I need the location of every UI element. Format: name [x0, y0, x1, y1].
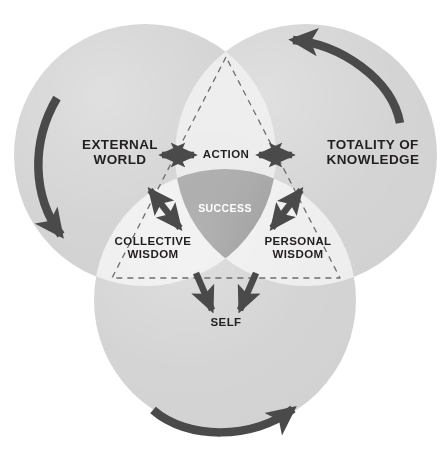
venn-diagram: EXTERNAL WORLD TOTALITY OF KNOWLEDGE ACT…	[0, 0, 448, 473]
circle-sheen	[14, 24, 437, 431]
venn-diagram-canvas	[0, 0, 448, 473]
